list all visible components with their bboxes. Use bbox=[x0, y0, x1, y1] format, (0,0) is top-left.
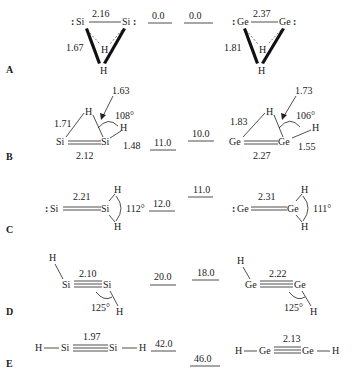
atom-si: Si bbox=[101, 136, 110, 147]
isomer-energy-diagram: A : Si 2.16 Si : H H 1.67 0.0 0.0 : Ge 2… bbox=[0, 0, 360, 381]
ge2h2-butterfly: : Ge 2.37 Ge : H H 1.81 bbox=[224, 8, 296, 76]
si-linear: H Si 1.97 Si H bbox=[35, 331, 146, 353]
si-vinylidene: : Si 2.21 Si H H 112° bbox=[45, 184, 145, 232]
angle-arc bbox=[279, 121, 300, 128]
atom-h: H bbox=[301, 221, 308, 232]
atom-h: H bbox=[258, 65, 265, 76]
atom-si: Si bbox=[122, 16, 131, 27]
atom-h: H bbox=[310, 306, 317, 317]
energy-si: 42.0 bbox=[155, 338, 173, 349]
arrow-line bbox=[284, 96, 296, 116]
atom-h: H bbox=[116, 306, 123, 317]
energy-ge: 46.0 bbox=[194, 353, 212, 364]
ge-trans-bent: H Ge 2.22 Ge H 125° bbox=[237, 255, 317, 317]
atom-si: Si bbox=[56, 136, 65, 147]
atom-h: H bbox=[101, 44, 108, 55]
angle-arc bbox=[116, 196, 121, 221]
atom-ge: Ge bbox=[279, 16, 291, 27]
energy-ge: 18.0 bbox=[197, 267, 215, 278]
bond-length-bridge: 1.71 bbox=[54, 118, 72, 129]
atom-h-terminal: H bbox=[312, 122, 319, 133]
energy-si: 20.0 bbox=[154, 271, 172, 282]
row-label-c: C bbox=[6, 224, 13, 235]
atom-h: H bbox=[35, 342, 42, 353]
atom-h: H bbox=[114, 221, 121, 232]
angle-arc bbox=[303, 196, 308, 221]
bond-wedge bbox=[85, 28, 101, 64]
angle-arc bbox=[98, 121, 118, 128]
bond-length-bridge: 1.83 bbox=[230, 116, 248, 127]
atom-h-bridge: H bbox=[85, 106, 92, 117]
angle: 125° bbox=[284, 302, 303, 313]
row-e: E H Si 1.97 Si H 42.0 46.0 H Ge 2.13 Ge bbox=[6, 331, 339, 369]
atom-si: Si bbox=[103, 279, 112, 290]
row-label-b: B bbox=[6, 151, 13, 162]
lone-pair-dots: : bbox=[133, 16, 136, 27]
bond-h-si bbox=[55, 264, 63, 279]
atom-ge: Ge bbox=[237, 16, 249, 27]
energy-ge: 0.0 bbox=[189, 10, 202, 21]
row-b: B 1.63 H 1.71 108° H Si Si 1.48 2.12 11.… bbox=[6, 85, 319, 162]
bond-si-h bbox=[109, 194, 115, 201]
angle: 106° bbox=[296, 110, 315, 121]
angle: 108° bbox=[115, 110, 134, 121]
bond-si-h bbox=[110, 291, 118, 306]
atom-h: H bbox=[332, 345, 339, 356]
arrow-line bbox=[103, 96, 113, 116]
atom-si: Si bbox=[76, 16, 85, 27]
bond-length-si-si: 2.16 bbox=[92, 8, 110, 19]
angle: 111° bbox=[313, 203, 331, 214]
atom-h: H bbox=[49, 252, 56, 263]
ge-monobridged: 1.73 H 1.83 106° H Ge Ge 1.55 2.27 bbox=[229, 85, 319, 161]
bond-length-arrow: 1.63 bbox=[112, 85, 130, 96]
arrow-head bbox=[100, 113, 106, 120]
si-trans-bent: H Si 2.10 Si H 125° bbox=[49, 252, 123, 317]
atom-ge: Ge bbox=[245, 279, 257, 290]
energy-si: 11.0 bbox=[154, 137, 171, 148]
bond-length-ge-h: 1.81 bbox=[224, 42, 242, 53]
bond-length-arrow: 1.73 bbox=[295, 85, 313, 96]
angle: 125° bbox=[91, 302, 110, 313]
ge-linear: H Ge 2.13 Ge H bbox=[235, 333, 339, 356]
atom-h-terminal: H bbox=[120, 122, 127, 133]
angle: 112° bbox=[126, 203, 145, 214]
bond-wedge bbox=[243, 28, 259, 64]
si-monobridged: 1.63 H 1.71 108° H Si Si 1.48 2.12 bbox=[54, 85, 141, 161]
bond-bridge bbox=[274, 115, 283, 137]
atom-si: Si bbox=[50, 203, 59, 214]
bond-ge-h bbox=[302, 291, 311, 306]
bond-length-ge-ge: 2.37 bbox=[253, 8, 271, 19]
atom-h: H bbox=[139, 342, 146, 353]
bond-length-si-si: 1.97 bbox=[83, 331, 101, 342]
atom-h: H bbox=[237, 255, 244, 266]
bond-length-si-si: 2.21 bbox=[73, 191, 91, 202]
angle-arc bbox=[289, 292, 305, 299]
row-a: A : Si 2.16 Si : H H 1.67 0.0 0.0 : Ge 2… bbox=[6, 8, 296, 76]
bond-length-ge-ge: 2.13 bbox=[283, 333, 301, 344]
bond-length-si-h: 1.67 bbox=[66, 42, 84, 53]
bond-ge-h bbox=[296, 194, 302, 201]
atom-ge: Ge bbox=[229, 136, 241, 147]
atom-ge: Ge bbox=[237, 203, 249, 214]
atom-ge: Ge bbox=[302, 345, 314, 356]
atom-h: H bbox=[114, 184, 121, 195]
atom-h: H bbox=[301, 184, 308, 195]
bond-terminal bbox=[292, 130, 311, 138]
atom-ge: Ge bbox=[278, 136, 290, 147]
row-label-a: A bbox=[6, 64, 14, 75]
lone-pair-dots: : bbox=[293, 16, 296, 27]
atom-si: Si bbox=[62, 279, 71, 290]
energy-si: 0.0 bbox=[152, 10, 165, 21]
lone-pair-dots: : bbox=[45, 203, 48, 214]
atom-si: Si bbox=[61, 342, 70, 353]
atom-h: H bbox=[235, 345, 242, 356]
angle-arc bbox=[96, 292, 112, 299]
atom-ge: Ge bbox=[294, 279, 306, 290]
energy-si: 12.0 bbox=[153, 198, 171, 209]
arrow-head bbox=[281, 113, 287, 120]
atom-ge: Ge bbox=[287, 203, 299, 214]
bond-length-ge-ge: 2.27 bbox=[253, 150, 271, 161]
bond-length-terminal: 1.48 bbox=[123, 140, 141, 151]
lone-pair-dots: : bbox=[232, 16, 235, 27]
bond-length-terminal: 1.55 bbox=[298, 141, 316, 152]
